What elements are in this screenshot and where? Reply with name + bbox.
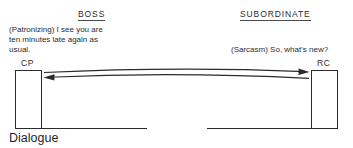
arrowhead-left-icon bbox=[44, 74, 55, 80]
dialogue-transaction-diagram: BOSS SUBORDINATE (Patronizing) I see you… bbox=[0, 0, 353, 148]
arrowhead-right-icon bbox=[299, 69, 310, 75]
transaction-arrow-rc-to-cp bbox=[44, 74, 310, 80]
transaction-arrows-layer bbox=[0, 0, 353, 148]
transaction-arrow-cp-to-rc bbox=[44, 69, 310, 75]
diagram-caption: Dialogue bbox=[9, 131, 58, 146]
